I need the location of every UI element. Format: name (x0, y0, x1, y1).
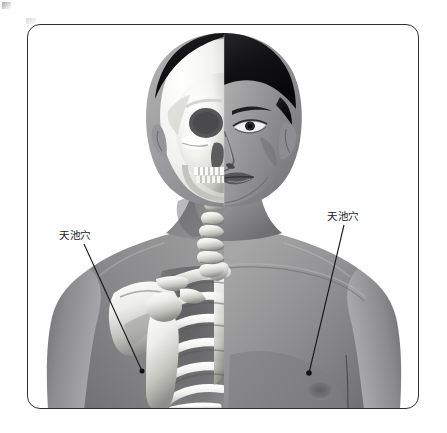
eye-socket-inner (193, 112, 219, 134)
marker-dot-right (306, 370, 312, 376)
teeth-lower (196, 176, 224, 183)
corner-artifact-secondary (26, 18, 36, 24)
marker-dot-left (140, 369, 145, 374)
pupil-right (248, 124, 252, 128)
anatomy-illustration (28, 25, 419, 409)
head-group (146, 33, 302, 207)
acupoint-label-right: 天池穴 (327, 211, 359, 222)
nipple-right (307, 382, 333, 400)
humeral-head (146, 292, 182, 322)
corner-artifact (2, 2, 11, 9)
teeth-upper (194, 167, 224, 175)
rib-7 (172, 406, 218, 409)
torso-group (47, 229, 401, 409)
acupoint-label-left: 天池穴 (59, 230, 91, 241)
face-half (224, 33, 296, 205)
illustration-frame (27, 24, 419, 409)
